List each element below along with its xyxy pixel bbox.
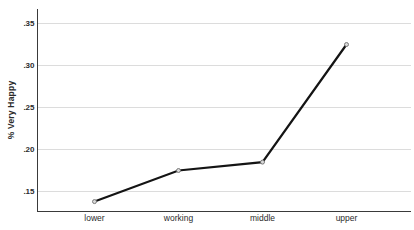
x-tick-label: working xyxy=(163,213,194,223)
plot-area: .15.20.25.30.35lowerworkingmiddleupper xyxy=(0,0,414,230)
x-tick-label: lower xyxy=(84,213,104,223)
y-tick-label: .30 xyxy=(23,61,35,70)
y-tick-label: .35 xyxy=(23,19,35,28)
data-line xyxy=(95,45,347,202)
data-point-marker xyxy=(345,43,349,47)
y-tick-label: .25 xyxy=(23,103,35,112)
data-point-marker xyxy=(177,169,181,173)
x-tick-label: middle xyxy=(250,213,275,223)
x-tick-label: upper xyxy=(336,213,358,223)
y-tick-label: .15 xyxy=(23,187,35,196)
tick-labels-group: .15.20.25.30.35lowerworkingmiddleupper xyxy=(23,19,357,223)
data-series-group xyxy=(93,43,349,204)
happiness-by-class-line-chart: % Very Happy .15.20.25.30.35lowerworking… xyxy=(0,0,414,230)
axes-group xyxy=(37,9,411,212)
y-tick-label: .20 xyxy=(23,145,35,154)
data-point-marker xyxy=(93,200,97,204)
data-point-marker xyxy=(261,160,265,164)
